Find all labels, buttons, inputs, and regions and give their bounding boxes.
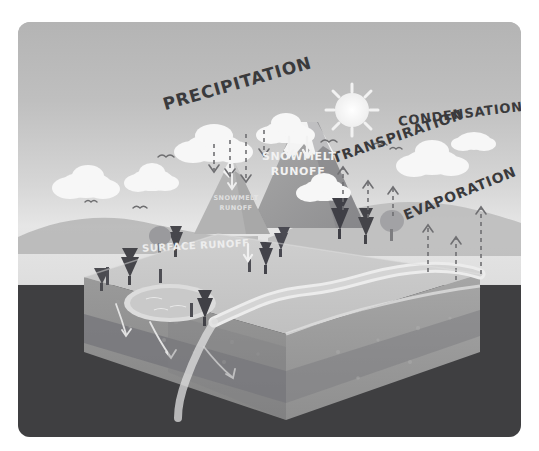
water-cycle-illustration: PRECIPITATION CONDENSATION TRANSPIRATION… [18,22,521,437]
label-snowmelt-runoff-small-line1: SNOWMELT [208,194,264,202]
label-snowmelt-runoff-small-line2: RUNOFF [208,204,264,212]
ground-dark-band [18,285,521,437]
label-snowmelt-runoff-line2: RUNOFF [262,165,334,178]
water-cycle-screenshot: PRECIPITATION CONDENSATION TRANSPIRATION… [0,0,539,451]
label-snowmelt-runoff-line1: SNOWMELT [262,150,334,163]
